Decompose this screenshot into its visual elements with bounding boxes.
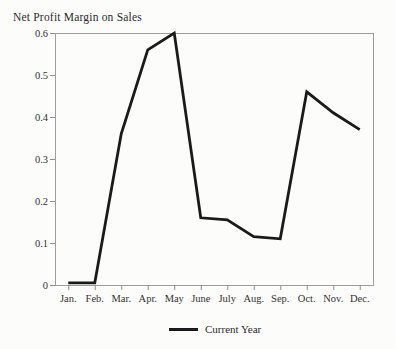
y-tick-label: 0.3 <box>26 154 48 165</box>
x-tick-label: Mar. <box>111 293 131 304</box>
y-tick-label: 0 <box>26 280 48 291</box>
x-tick-label: Sep. <box>271 293 289 304</box>
x-tick-label: Feb. <box>86 293 104 304</box>
x-tick-label: Nov. <box>323 293 343 304</box>
x-tick-label: July <box>218 293 236 304</box>
y-tick-label: 0.5 <box>26 70 48 81</box>
legend-line-swatch <box>169 328 198 331</box>
x-tick-label: May <box>165 293 184 304</box>
y-tick-label: 0.6 <box>26 28 48 39</box>
y-tick-label: 0.4 <box>26 112 48 123</box>
x-tick-label: June <box>191 293 210 304</box>
x-tick-label: Dec. <box>350 293 370 304</box>
legend: Current Year <box>169 323 261 335</box>
legend-label: Current Year <box>205 323 261 335</box>
y-tick-label: 0.1 <box>26 238 48 249</box>
y-tick-label: 0.2 <box>26 196 48 207</box>
x-tick-label: Jan. <box>60 293 77 304</box>
x-tick-label: Aug. <box>243 293 264 304</box>
x-tick-label: Oct. <box>298 293 316 304</box>
chart-figure: Net Profit Margin on Sales 00.10.20.30.4… <box>0 0 396 349</box>
x-tick-label: Apr. <box>139 293 157 304</box>
